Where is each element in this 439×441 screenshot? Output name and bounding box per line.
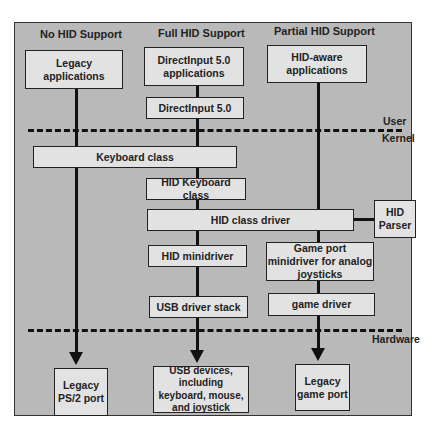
- column-header-no-hid: No HID Support: [40, 28, 122, 40]
- legacy-applications-box: Legacy applications: [25, 50, 123, 89]
- arrow-down-icon: [311, 348, 325, 361]
- legacy-game-port-box: Legacy game port: [295, 364, 350, 411]
- directinput-box: DirectInput 5.0: [146, 97, 244, 119]
- no-hid-stack-line: [75, 88, 78, 352]
- usb-driver-stack-box: USB driver stack: [149, 296, 248, 318]
- hid-parser-connector: [352, 218, 374, 221]
- arrow-down-icon: [190, 350, 204, 363]
- hid-keyboard-class-box: HID Keyboard class: [146, 178, 246, 200]
- hid-class-driver-box: HID class driver: [147, 209, 354, 231]
- column-header-full-hid: Full HID Support: [158, 27, 245, 39]
- hid-aware-applications-box: HID-aware applications: [267, 45, 367, 83]
- column-header-partial-hid: Partial HID Support: [274, 25, 375, 37]
- game-driver-box: game driver: [268, 293, 375, 316]
- game-port-minidriver-box: Game port minidriver for analog joystick…: [266, 242, 374, 281]
- hid-minidriver-box: HID minidriver: [148, 245, 247, 267]
- hid-parser-box: HID Parser: [374, 200, 416, 238]
- hardware-label: Hardware: [372, 333, 420, 345]
- user-kernel-boundary: [28, 129, 402, 132]
- user-label: User: [383, 115, 406, 127]
- directinput-applications-box: DirectInput 5.0 applications: [144, 47, 244, 86]
- legacy-ps2-port-box: Legacy PS/2 port: [54, 368, 108, 416]
- kernel-hardware-boundary: [28, 329, 402, 332]
- arrow-down-icon: [69, 352, 83, 365]
- usb-devices-box: USB devices, including keyboard, mouse, …: [153, 366, 249, 413]
- keyboard-class-box: Keyboard class: [33, 146, 237, 168]
- kernel-label: Kernel: [382, 132, 415, 144]
